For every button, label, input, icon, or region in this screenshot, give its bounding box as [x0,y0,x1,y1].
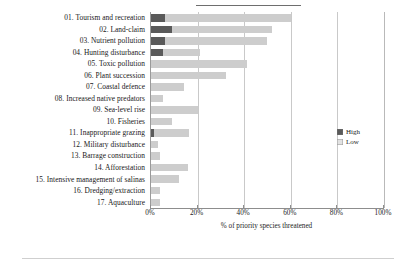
bar-segment-low [151,152,160,160]
top-divider [196,5,301,6]
category-label: 05. Toxic pollution [0,58,148,70]
stacked-bar [151,129,189,137]
bar-segment-low [172,26,272,34]
bar-row [151,70,384,82]
bar-segment-high [151,14,165,22]
stacked-bar [151,187,160,195]
category-label: 06. Plant succession [0,70,148,82]
bar-segment-low [151,83,184,91]
bar-segment-high [151,49,163,57]
stacked-bar [151,14,291,22]
gridline [384,12,385,208]
category-label: 09. Sea-level rise [0,104,148,116]
stacked-bar [151,72,226,80]
stacked-bar [151,141,158,149]
bar-row [151,162,384,174]
bar-row [151,116,384,128]
bar-row [151,173,384,185]
bar-segment-low [165,14,291,22]
category-label: 17. Aquaculture [0,197,148,209]
x-tick-label: 20% [190,209,203,217]
category-label: 16. Dredging/extraction [0,185,148,197]
legend-swatch-low-icon [337,139,343,145]
stacked-bar [151,49,200,57]
bar-segment-low [151,118,172,126]
category-label: 14. Afforestation [0,162,148,174]
bar-row [151,197,384,209]
category-axis-labels: 01. Tourism and recreation 02. Land-clai… [0,12,148,208]
stacked-bar [151,199,160,207]
bar-segment-low [151,95,163,103]
bar-row [151,12,384,24]
category-label: 15. Intensive management of salinas [0,173,148,185]
stacked-bar [151,37,267,45]
bar-row [151,93,384,105]
category-label: 01. Tourism and recreation [0,12,148,24]
stacked-bar [151,152,160,160]
x-axis-ticks: 0%20%40%60%80%100% [150,209,383,223]
category-label: 07. Coastal defence [0,81,148,93]
bar-row [151,24,384,36]
legend-item-low: Low [337,138,360,146]
bar-segment-low [151,72,226,80]
plot-wrapper: 01. Tourism and recreation 02. Land-clai… [0,12,407,224]
category-label: 11. Inappropriate grazing [0,127,148,139]
legend-label: Low [346,138,359,146]
bar-segment-low [151,187,160,195]
chart-figure: 01. Tourism and recreation 02. Land-clai… [0,0,407,265]
chart-legend: High Low [337,128,360,146]
bar-segment-high [151,37,165,45]
legend-item-high: High [337,128,360,136]
x-tick-label: 0% [145,209,155,217]
bar-segment-high [151,26,172,34]
category-label: 02. Land-claim [0,24,148,36]
x-axis-title: % of priority species threatened [150,222,383,230]
bar-row [151,104,384,116]
plot-area [150,12,384,209]
bottom-divider [22,258,394,259]
legend-label: High [346,128,360,136]
category-label: 08. Increased native predators [0,93,148,105]
stacked-bar [151,106,198,114]
stacked-bar [151,118,172,126]
category-label: 12. Military disturbance [0,139,148,151]
bar-segment-low [151,60,247,68]
bar-segment-low [165,37,268,45]
bar-segment-low [154,129,189,137]
bar-row [151,150,384,162]
x-tick-label: 80% [330,209,343,217]
category-label: 04. Hunting disturbance [0,47,148,59]
bar-segment-low [151,106,198,114]
bar-row [151,81,384,93]
x-tick-label: 60% [283,209,296,217]
stacked-bar [151,60,247,68]
category-label: 03. Nutrient pollution [0,35,148,47]
stacked-bar [151,26,272,34]
x-tick-label: 100% [375,209,392,217]
stacked-bar [151,164,188,172]
x-tick-label: 40% [237,209,250,217]
category-label: 10. Fisheries [0,116,148,128]
category-label: 13. Barrage construction [0,150,148,162]
bar-segment-low [163,49,200,57]
bar-series-container [151,12,384,208]
stacked-bar [151,95,163,103]
bar-segment-low [151,175,179,183]
bar-row [151,185,384,197]
bar-segment-low [151,199,160,207]
stacked-bar [151,83,184,91]
bar-segment-low [151,164,188,172]
legend-swatch-high-icon [337,129,343,135]
stacked-bar [151,175,179,183]
bar-row [151,47,384,59]
bar-row [151,35,384,47]
bar-segment-low [151,141,158,149]
bar-row [151,58,384,70]
